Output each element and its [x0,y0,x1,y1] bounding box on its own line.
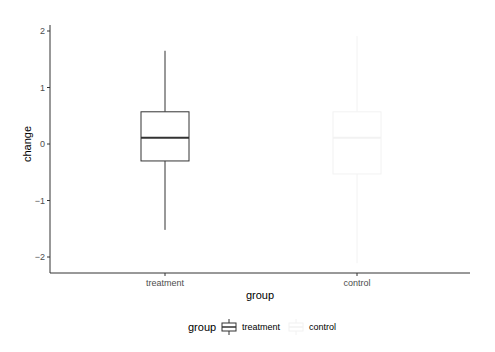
legend: grouptreatmentcontrol [188,319,336,335]
box-treatment [141,51,189,230]
legend-title: group [188,321,216,333]
y-axis: −2−1012 [35,25,50,273]
x-tick-label: treatment [146,278,185,288]
y-tick-label: 1 [40,83,45,93]
x-axis-title: group [246,289,274,301]
legend-label: control [309,322,336,332]
y-tick-label: −2 [35,252,45,262]
y-tick-label: 2 [40,26,45,36]
box-control [333,36,381,263]
legend-key-treatment [222,319,236,335]
y-tick-label: 0 [40,139,45,149]
boxplot-chart: −2−1012 treatmentcontrol change group gr… [0,0,495,352]
y-tick-label: −1 [35,196,45,206]
legend-key-control [289,319,303,335]
boxes [141,36,381,263]
legend-label: treatment [242,322,281,332]
y-axis-title: change [21,126,33,162]
x-tick-label: control [343,278,370,288]
x-axis: treatmentcontrol [50,273,470,288]
